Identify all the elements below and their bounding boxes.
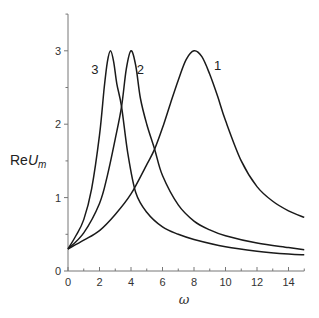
curve-label-3: 3 bbox=[91, 62, 98, 77]
y-tick-label: 0 bbox=[55, 265, 61, 277]
y-tick-label: 2 bbox=[55, 118, 61, 130]
y-tick-label: 3 bbox=[55, 45, 61, 57]
x-tick-label: 8 bbox=[191, 276, 197, 288]
curve-3 bbox=[68, 51, 304, 255]
axes: 024681012140123 bbox=[55, 14, 304, 288]
x-tick-label: 12 bbox=[251, 276, 263, 288]
chart: 024681012140123 123 ReUm ω bbox=[0, 0, 319, 318]
x-tick-label: 10 bbox=[219, 276, 231, 288]
curve-label-2: 2 bbox=[137, 62, 144, 77]
x-tick-label: 0 bbox=[65, 276, 71, 288]
y-axis-label: ReUm bbox=[10, 152, 46, 170]
y-tick-label: 1 bbox=[55, 192, 61, 204]
x-axis-label: ω bbox=[179, 292, 190, 307]
curve-1 bbox=[68, 51, 304, 249]
x-tick-label: 6 bbox=[159, 276, 165, 288]
x-tick-label: 14 bbox=[282, 276, 294, 288]
x-tick-label: 4 bbox=[128, 276, 134, 288]
curve-2 bbox=[68, 51, 304, 250]
x-tick-label: 2 bbox=[96, 276, 102, 288]
curve-label-1: 1 bbox=[214, 58, 221, 73]
curves bbox=[68, 51, 304, 255]
curve-labels: 123 bbox=[91, 58, 221, 77]
